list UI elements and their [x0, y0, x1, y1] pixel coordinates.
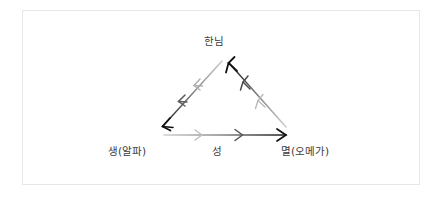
node-label-top: 한님	[204, 36, 224, 47]
figure-canvas: 한님 생(알파) 성 멸(오메가)	[0, 0, 441, 198]
node-label-right: 멸(오메가)	[281, 146, 329, 157]
node-label-middle: 성	[212, 146, 222, 157]
node-label-left: 생(알파)	[108, 146, 146, 157]
